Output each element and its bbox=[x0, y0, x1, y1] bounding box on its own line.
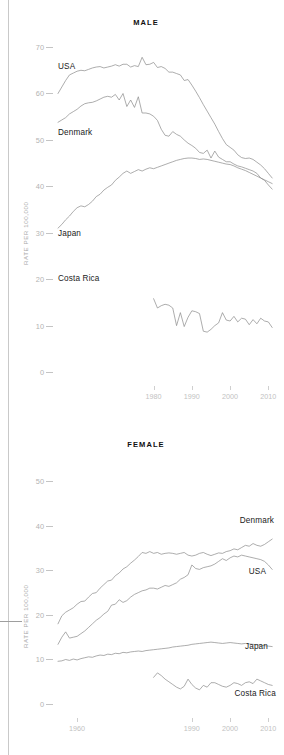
y-axis-tick: 0 bbox=[23, 700, 53, 709]
female-series-label-japan: Japan bbox=[245, 642, 268, 651]
line-costa-rica bbox=[154, 673, 273, 690]
x-axis-tick-label: 2010 bbox=[250, 724, 284, 733]
x-axis-tick-label: 1960 bbox=[59, 724, 95, 733]
x-axis-tick-label: 2000 bbox=[212, 392, 248, 401]
chart-page: MALE RATE PER 100,000 FEMALE RATE PER 10… bbox=[0, 0, 284, 755]
male-chart-panel: MALE bbox=[0, 18, 284, 418]
x-axis-tickmark bbox=[154, 386, 155, 390]
line-usa bbox=[58, 555, 272, 644]
x-axis-tickmark bbox=[192, 386, 193, 390]
line-denmark bbox=[58, 539, 272, 624]
x-axis-tick-label: 2010 bbox=[250, 392, 284, 401]
y-axis-tick: 30 bbox=[23, 566, 53, 575]
y-axis-tick: 10 bbox=[23, 655, 53, 664]
y-axis-tick: 20 bbox=[23, 275, 53, 284]
male-plot-lines bbox=[0, 18, 284, 418]
y-axis-tick: 40 bbox=[23, 522, 53, 531]
y-axis-tick: 20 bbox=[23, 611, 53, 620]
y-axis-tick: 30 bbox=[23, 229, 53, 238]
male-series-label-usa: USA bbox=[58, 62, 75, 71]
x-axis-tick-label: 1990 bbox=[174, 392, 210, 401]
line-denmark bbox=[58, 94, 272, 190]
y-axis-tick: 50 bbox=[23, 477, 53, 486]
line-costa-rica bbox=[154, 299, 273, 332]
x-axis-tick-label: 1980 bbox=[136, 392, 172, 401]
x-axis-tickmark bbox=[230, 386, 231, 390]
line-japan bbox=[58, 158, 272, 228]
line-usa bbox=[58, 57, 272, 178]
x-axis-tick-label: 1990 bbox=[174, 724, 210, 733]
y-axis-tick: 10 bbox=[23, 322, 53, 331]
y-axis-tick: 40 bbox=[23, 182, 53, 191]
x-axis-tick-label: 2000 bbox=[212, 724, 248, 733]
female-series-label-usa: USA bbox=[249, 567, 266, 576]
female-series-label-costa-rica: Costa Rica bbox=[234, 689, 276, 698]
line-japan bbox=[58, 642, 272, 661]
female-series-label-denmark: Denmark bbox=[240, 516, 274, 525]
x-axis-tickmark bbox=[268, 718, 269, 722]
y-axis-tick: 0 bbox=[23, 368, 53, 377]
male-series-label-denmark: Denmark bbox=[58, 128, 92, 137]
x-axis-tickmark bbox=[230, 718, 231, 722]
y-axis-tick: 50 bbox=[23, 136, 53, 145]
x-axis-tickmark bbox=[192, 718, 193, 722]
y-axis-tick: 70 bbox=[23, 43, 53, 52]
y-axis-tick: 60 bbox=[23, 89, 53, 98]
male-series-label-costa-rica: Costa Rica bbox=[58, 274, 100, 283]
male-series-label-japan: Japan bbox=[58, 229, 81, 238]
x-axis-tickmark bbox=[77, 718, 78, 722]
x-axis-tickmark bbox=[268, 386, 269, 390]
